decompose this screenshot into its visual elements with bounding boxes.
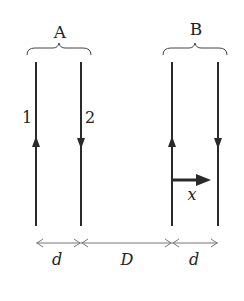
- arrow-up-icon: [32, 136, 40, 147]
- dimension-d-right: d: [189, 250, 199, 269]
- wire-2-label: 2: [85, 108, 95, 127]
- dimension-lines: [36, 239, 218, 247]
- two-wire-pairs-diagram: A B 1 2 x d D d: [0, 0, 244, 301]
- arrow-up-icon: [168, 136, 176, 147]
- arrow-down-icon: [214, 138, 222, 149]
- arrow-down-icon: [77, 138, 85, 149]
- dimension-D: D: [120, 250, 134, 269]
- displacement-label: x: [187, 185, 196, 204]
- dimension-d-left: d: [52, 250, 62, 269]
- group-a-brace: [27, 43, 91, 55]
- group-b-brace: [163, 43, 227, 55]
- arrow-right-icon: [196, 174, 211, 186]
- group-b-label: B: [190, 19, 203, 39]
- wire-1-label: 1: [22, 108, 32, 127]
- group-a-label: A: [53, 22, 67, 42]
